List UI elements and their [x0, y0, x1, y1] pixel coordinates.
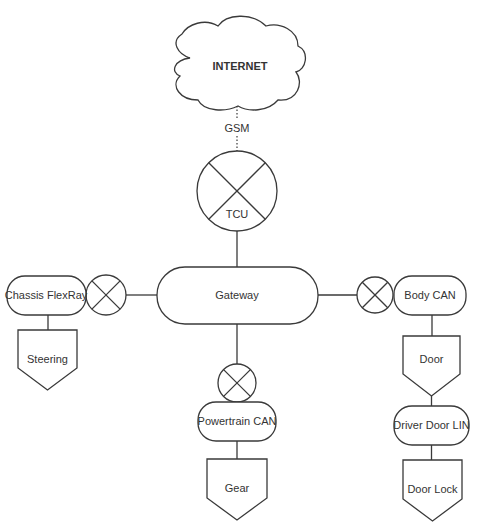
door-lock-label: Door Lock — [407, 483, 458, 495]
body-can-label: Body CAN — [404, 289, 455, 301]
vehicle-network-diagram: INTERNET GSM TCU Gateway Chassis FlexRay… — [0, 0, 481, 530]
steering-label: Steering — [27, 353, 68, 365]
gear-ecu[interactable]: Gear — [207, 459, 267, 520]
door-shape — [403, 336, 460, 396]
body-can-bus[interactable]: Body CAN — [394, 276, 466, 315]
internet-label: INTERNET — [213, 60, 268, 72]
chassis-flexray-bus[interactable]: Chassis FlexRay — [5, 276, 88, 315]
door-label: Door — [420, 353, 444, 365]
gateway-label: Gateway — [215, 289, 259, 301]
chassis-interface — [86, 275, 126, 315]
steering-ecu[interactable]: Steering — [18, 330, 77, 390]
tcu-node[interactable]: TCU — [197, 151, 277, 231]
driver-door-lin-label: Driver Door LIN — [393, 419, 469, 431]
body-interface — [357, 277, 393, 313]
gsm-label: GSM — [224, 122, 249, 134]
powertrain-can-bus[interactable]: Powertrain CAN — [198, 402, 277, 441]
tcu-label: TCU — [226, 208, 249, 220]
chassis-label: Chassis FlexRay — [5, 289, 88, 301]
powertrain-label: Powertrain CAN — [198, 415, 277, 427]
internet-cloud: INTERNET — [175, 16, 306, 110]
door-ecu[interactable]: Door — [403, 336, 460, 396]
driver-door-lin-bus[interactable]: Driver Door LIN — [393, 406, 469, 445]
gear-label: Gear — [225, 482, 250, 494]
gateway-node[interactable]: Gateway — [157, 267, 318, 324]
door-lock-ecu[interactable]: Door Lock — [403, 460, 462, 521]
powertrain-interface — [218, 364, 256, 402]
